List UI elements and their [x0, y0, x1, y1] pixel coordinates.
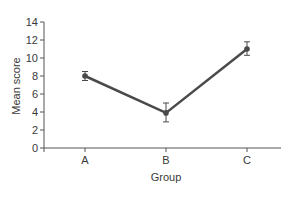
data-point	[163, 110, 169, 116]
data-series	[82, 42, 250, 122]
y-tick-label: 8	[32, 70, 38, 82]
y-axis: 02468101214	[26, 16, 44, 154]
data-point	[82, 73, 88, 79]
y-tick-label: 14	[26, 16, 38, 28]
y-tick-label: 2	[32, 124, 38, 136]
line-chart: 02468101214 ABC Mean score Group	[0, 0, 301, 198]
y-tick-label: 12	[26, 34, 38, 46]
x-axis: ABC	[44, 148, 281, 166]
x-axis-label: Group	[151, 171, 182, 183]
y-tick-label: 0	[32, 142, 38, 154]
y-axis-label: Mean score	[10, 57, 22, 114]
data-point	[244, 46, 250, 52]
x-tick-label: A	[81, 154, 89, 166]
x-tick-label: B	[162, 154, 169, 166]
x-tick-label: C	[243, 154, 251, 166]
y-tick-label: 4	[32, 106, 38, 118]
y-tick-label: 6	[32, 88, 38, 100]
y-tick-label: 10	[26, 52, 38, 64]
